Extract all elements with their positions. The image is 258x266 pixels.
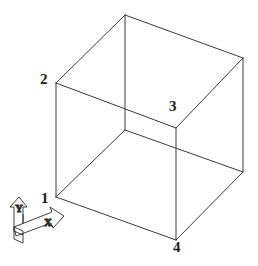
edge-bottom-left-to-front — [56, 197, 176, 240]
cube-wireframe-drawing: Y X — [0, 0, 258, 266]
vertex-label-4: 4 — [173, 240, 181, 255]
edge-bottom-right-to-back — [125, 130, 243, 172]
figure-canvas: Y X 2 3 1 4 — [0, 0, 258, 266]
edge-top-left-to-inner — [56, 83, 176, 128]
vertex-label-1: 1 — [41, 191, 49, 206]
cube-edges — [56, 15, 243, 240]
axis-indicator: Y X — [10, 197, 64, 243]
edge-bottom-back-to-left — [56, 130, 125, 197]
vertex-label-2: 2 — [40, 72, 48, 87]
edge-bottom-front-to-right — [176, 172, 243, 240]
vertex-label-3: 3 — [169, 99, 177, 114]
edge-top-inner-to-right — [176, 58, 243, 128]
x-axis-label: X — [44, 216, 52, 228]
y-axis-label: Y — [15, 202, 23, 214]
edge-top-right-to-apex — [125, 15, 243, 58]
edge-top-apex-to-left — [56, 15, 125, 83]
